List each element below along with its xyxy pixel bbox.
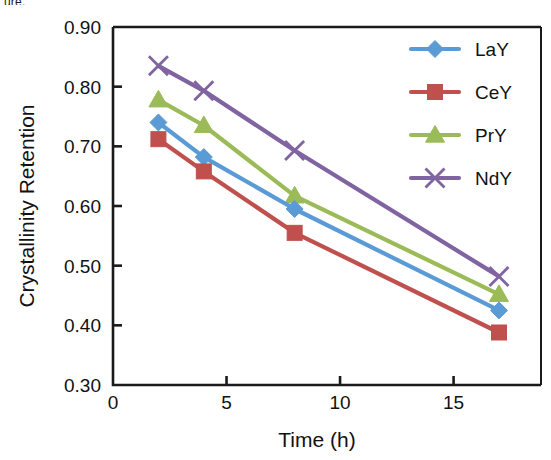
data-point-marker xyxy=(149,56,168,75)
data-point-marker xyxy=(194,81,213,100)
y-axis-tick-label: 0.40 xyxy=(64,315,101,336)
legend-label: CeY xyxy=(475,82,512,103)
series-line xyxy=(158,123,499,311)
legend-item-cey[interactable]: CeY xyxy=(411,82,512,103)
y-axis-tick-label: 0.30 xyxy=(64,375,101,396)
x-axis-tick-label: 5 xyxy=(221,392,232,413)
data-point-marker xyxy=(490,302,507,319)
legend-label: PrY xyxy=(475,125,507,146)
data-point-marker xyxy=(287,225,302,240)
x-axis-tick-label: 10 xyxy=(329,392,350,413)
data-point-marker xyxy=(489,267,508,286)
legend: LaYCeYPrYNdY xyxy=(411,39,512,189)
legend-label: NdY xyxy=(475,168,512,189)
data-point-marker xyxy=(491,325,506,340)
data-point-marker xyxy=(196,164,211,179)
x-axis-label: Time (h) xyxy=(278,428,355,451)
y-axis-tick-label: 0.80 xyxy=(64,77,101,98)
legend-item-pry[interactable]: PrY xyxy=(411,125,507,146)
x-axis-tick-label: 15 xyxy=(443,392,464,413)
legend-label: LaY xyxy=(475,39,509,60)
x-axis-tick-label: 0 xyxy=(108,392,119,413)
y-axis-tick-label: 0.50 xyxy=(64,256,101,277)
legend-item-ndy[interactable]: NdY xyxy=(411,168,512,189)
legend-item-lay[interactable]: LaY xyxy=(411,39,509,60)
plot-frame xyxy=(113,27,541,385)
data-point-marker xyxy=(151,132,166,147)
y-axis-tick-label: 0.60 xyxy=(64,196,101,217)
y-axis-label: Crystallinity Retention xyxy=(15,104,38,307)
legend-swatch-marker xyxy=(427,41,444,58)
data-point-marker xyxy=(149,90,168,107)
figure-container: ure. 0.300.400.500.600.700.800.90051015T… xyxy=(0,0,551,460)
series-lay xyxy=(150,114,508,319)
legend-swatch-marker xyxy=(428,85,443,100)
y-axis-tick-label: 0.90 xyxy=(64,17,101,38)
data-point-marker xyxy=(194,116,213,133)
chart-canvas: 0.300.400.500.600.700.800.90051015Time (… xyxy=(0,0,551,460)
data-point-marker xyxy=(285,141,304,160)
series-pry xyxy=(149,90,509,301)
y-axis-tick-label: 0.70 xyxy=(64,136,101,157)
